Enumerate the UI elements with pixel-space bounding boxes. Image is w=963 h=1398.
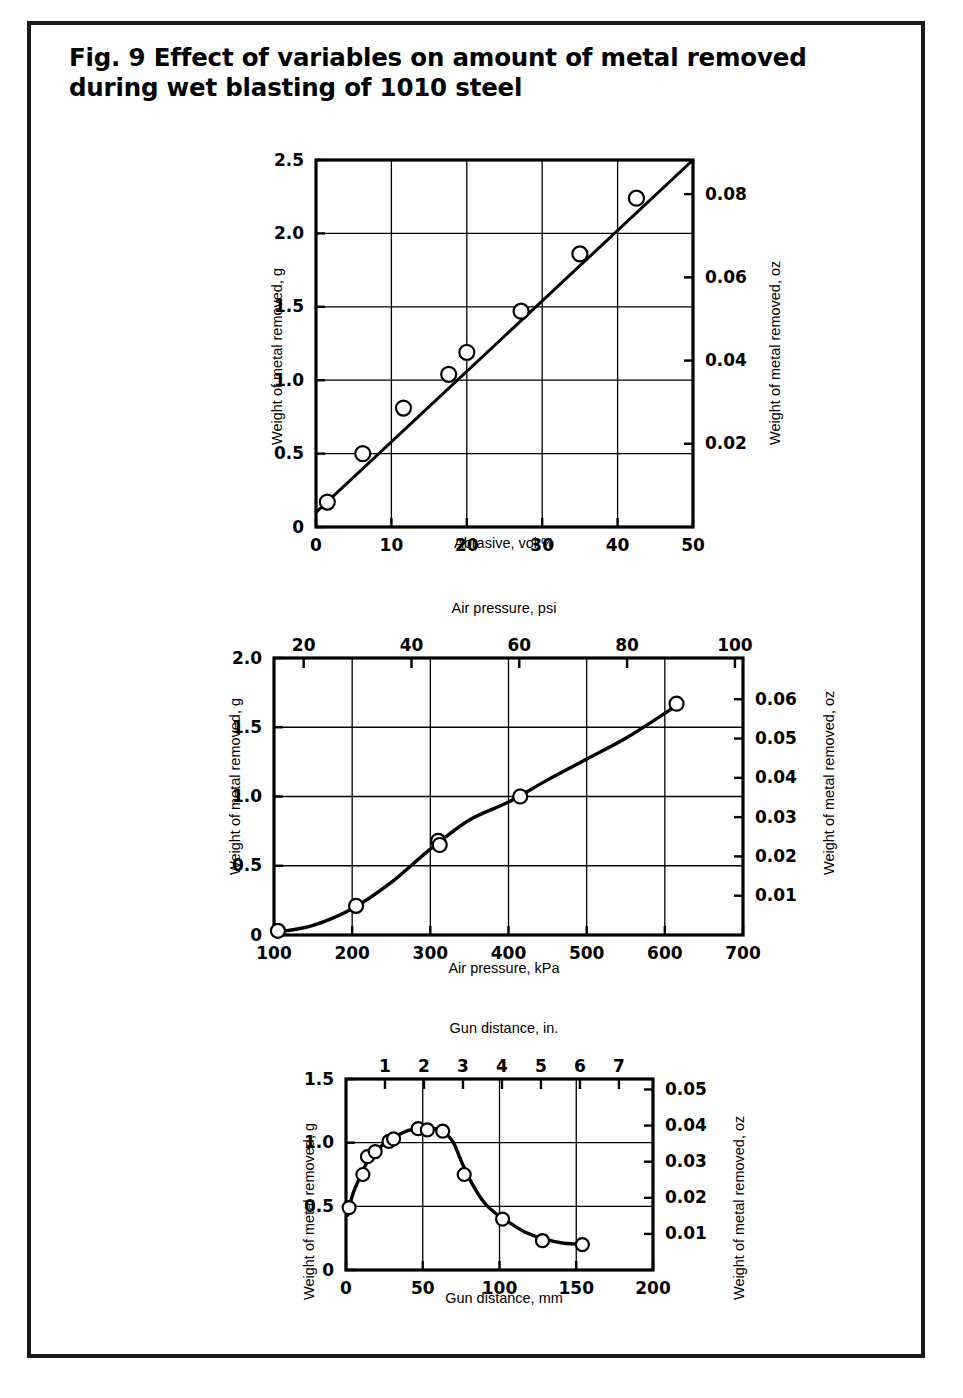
x-axis-tick-label: 100 [256,943,292,963]
data-curve [277,704,678,933]
data-point-marker [343,1201,356,1214]
data-point-marker [421,1123,434,1136]
data-point-marker [458,1168,471,1181]
x-axis-tick-label: 600 [647,943,683,963]
figure-title-line-1: Fig. 9 Effect of variables on amount of … [69,43,889,73]
air-pressure-chart: Air pressure, psi 00.51.01.52.00.010.020… [31,570,925,1010]
y2-axis-tick-label: 0.06 [755,689,797,709]
y-axis-tick-label: 1.5 [304,1069,334,1089]
abrasive-chart-xlabel: Abrasive, vol % [404,535,604,551]
figure-title-line-2: during wet blasting of 1010 steel [69,73,889,103]
data-point-marker [670,697,684,711]
x-axis-tick-label: 50 [681,535,705,555]
data-point-marker [356,1168,369,1181]
data-point-marker [459,345,474,360]
abrasive-chart-group: 00.51.01.52.02.50.020.040.060.0801020304… [274,150,747,556]
data-point-marker [271,924,285,938]
x-axis-top-tick-label: 1 [379,1056,391,1076]
y-axis-tick-label: 2.0 [232,648,262,668]
data-point-marker [369,1145,382,1158]
data-point-marker [349,899,363,913]
x-axis-tick-label: 0 [310,535,322,555]
y-axis-tick-label: 0 [292,517,304,537]
x-axis-top-tick-label: 4 [496,1056,508,1076]
abrasive-chart-y2label: Weight of metal removed, oz [767,261,783,445]
data-point-marker [396,401,411,416]
y2-axis-tick-label: 0.05 [755,728,797,748]
y2-axis-tick-label: 0.02 [665,1187,707,1207]
gun-distance-chart-ylabel: Weight of metal removed, g [301,1123,317,1300]
y2-axis-tick-label: 0.01 [755,885,797,905]
figure-title: Fig. 9 Effect of variables on amount of … [69,43,889,103]
gun-distance-chart-xlabel-bottom: Gun distance, mm [404,1290,604,1306]
air-pressure-chart-ylabel: Weight of metal removed, g [227,698,243,875]
data-point-marker [576,1238,589,1251]
data-point-marker [514,304,529,319]
data-curve [316,160,693,512]
air-pressure-chart-plot: 00.51.01.52.00.010.020.030.040.050.06100… [31,570,925,1010]
data-point-marker [629,191,644,206]
y2-axis-tick-label: 0.04 [755,767,797,787]
x-axis-top-tick-label: 2 [418,1056,430,1076]
y-axis-tick-label: 0 [322,1260,334,1280]
x-axis-top-tick-label: 40 [400,635,424,655]
data-point-marker [436,1125,449,1138]
x-axis-tick-label: 10 [380,535,404,555]
x-axis-top-tick-label: 20 [292,635,316,655]
data-point-marker [572,246,587,261]
y2-axis-tick-label: 0.04 [665,1115,707,1135]
x-axis-tick-label: 0 [340,1278,352,1298]
y2-axis-tick-label: 0.04 [705,350,747,370]
figure-frame: Fig. 9 Effect of variables on amount of … [27,21,925,1358]
abrasive-chart-ylabel: Weight of metal removed, g [269,268,285,445]
y2-axis-tick-label: 0.03 [665,1151,707,1171]
data-point-marker [536,1234,549,1247]
x-axis-top-tick-label: 7 [613,1056,625,1076]
x-axis-top-tick-label: 80 [615,635,639,655]
y-axis-tick-label: 0.5 [274,443,304,463]
y2-axis-tick-label: 0.05 [665,1079,707,1099]
data-point-marker [387,1132,400,1145]
x-axis-tick-label: 200 [334,943,370,963]
x-axis-top-tick-label: 5 [535,1056,547,1076]
x-axis-top-tick-label: 6 [574,1056,586,1076]
abrasive-chart-plot: 00.51.01.52.02.50.020.040.060.0801020304… [31,115,925,585]
air-pressure-chart-y2label: Weight of metal removed, oz [821,691,837,875]
y-axis-tick-label: 0 [250,925,262,945]
y2-axis-tick-label: 0.02 [755,846,797,866]
plot-frame [316,160,693,527]
abrasive-chart: 00.51.01.52.02.50.020.040.060.0801020304… [31,115,925,585]
air-pressure-chart-group: 00.51.01.52.00.010.020.030.040.050.06100… [232,635,797,963]
data-point-marker [496,1213,509,1226]
y2-axis-tick-label: 0.03 [755,807,797,827]
data-point-marker [320,495,335,510]
x-axis-tick-label: 700 [725,943,761,963]
y2-axis-tick-label: 0.06 [705,267,747,287]
y2-axis-tick-label: 0.08 [705,184,747,204]
data-point-marker [433,838,447,852]
x-axis-top-tick-label: 100 [717,635,753,655]
gun-distance-chart: Gun distance, in. 00.51.01.50.010.020.03… [31,1000,925,1330]
y-axis-tick-label: 2.5 [274,150,304,170]
gun-distance-chart-y2label: Weight of metal removed, oz [731,1116,747,1300]
gun-distance-chart-plot: 00.51.01.50.010.020.030.040.050501001502… [31,1000,925,1330]
x-axis-top-tick-label: 3 [457,1056,469,1076]
y2-axis-tick-label: 0.02 [705,433,747,453]
y2-axis-tick-label: 0.01 [665,1223,707,1243]
data-point-marker [441,367,456,382]
data-point-marker [513,790,527,804]
gun-distance-chart-group: 00.51.01.50.010.020.030.040.050501001502… [304,1056,707,1298]
data-point-marker [355,446,370,461]
x-axis-tick-label: 40 [606,535,630,555]
air-pressure-chart-xlabel-bottom: Air pressure, kPa [404,960,604,976]
x-axis-tick-label: 200 [635,1278,671,1298]
y-axis-tick-label: 2.0 [274,223,304,243]
x-axis-top-tick-label: 60 [507,635,531,655]
